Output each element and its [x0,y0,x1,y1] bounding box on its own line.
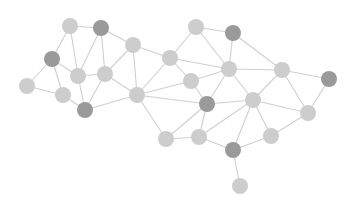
edge [137,81,191,95]
graph-node-dark [199,96,215,112]
graph-node-dark [321,71,337,87]
graph-node-light [221,61,237,77]
graph-node-light [158,131,174,147]
graph-node-light [62,18,78,34]
graph-node-dark [77,102,93,118]
edge [196,27,229,69]
graph-node-light [162,50,178,66]
network-diagram [0,0,354,207]
graph-node-light [232,178,248,194]
graph-node-light [188,19,204,35]
graph-node-light [300,105,316,121]
graph-node-light [55,87,71,103]
node-layer [19,18,337,194]
graph-node-light [125,37,141,53]
graph-node-dark [44,51,60,67]
graph-node-light [191,129,207,145]
edge [233,33,282,70]
graph-node-light [129,87,145,103]
graph-node-light [97,66,113,82]
edge [137,95,207,104]
graph-node-dark [93,20,109,36]
edge [85,95,137,110]
graph-node-light [263,128,279,144]
edge-layer [27,26,329,186]
graph-node-light [183,73,199,89]
graph-node-light [245,92,261,108]
graph-node-dark [225,25,241,41]
graph-node-light [274,62,290,78]
graph-node-light [70,68,86,84]
graph-node-dark [225,142,241,158]
graph-node-light [19,78,35,94]
edge [253,100,308,113]
